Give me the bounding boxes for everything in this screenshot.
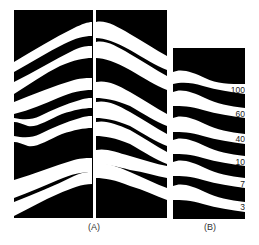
panel-a-left bbox=[14, 10, 93, 218]
band-label-7: 7 bbox=[221, 180, 245, 189]
band-label-10: 10 bbox=[221, 158, 245, 167]
band-label-60: 60 bbox=[221, 110, 245, 119]
panel-a-label: (A) bbox=[79, 222, 109, 232]
band-label-40: 40 bbox=[221, 135, 245, 144]
band-label-100: 100 bbox=[221, 86, 245, 95]
panel-b: 100 60 40 10 7 3 bbox=[173, 48, 245, 219]
panel-a-right bbox=[96, 10, 167, 218]
band-label-3: 3 bbox=[221, 203, 245, 212]
panel-b-label: (B) bbox=[195, 222, 225, 232]
